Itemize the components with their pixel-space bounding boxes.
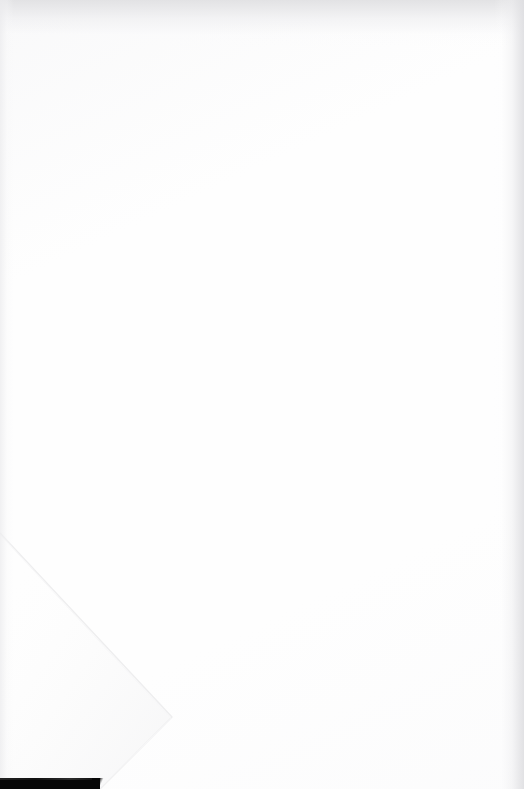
scanned-page-canvas [0,0,524,789]
page-text-content [48,60,468,710]
scanner-edge-bar-highlight [0,778,100,780]
scanner-edge-bar-taper [92,778,106,789]
